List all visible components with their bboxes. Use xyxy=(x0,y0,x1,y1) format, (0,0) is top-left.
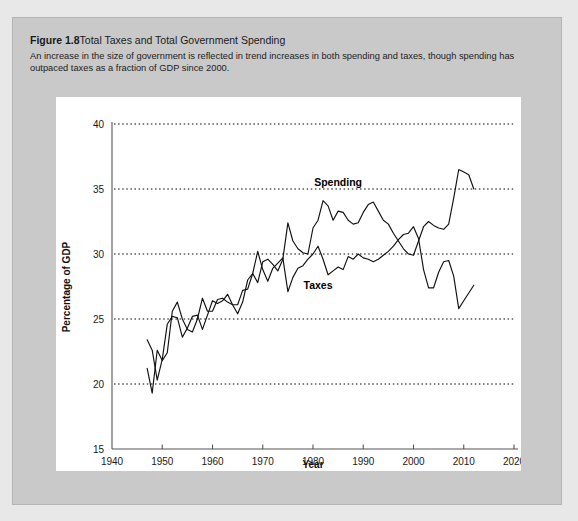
series-label-taxes: Taxes xyxy=(304,279,333,291)
y-tick-25: 25 xyxy=(93,314,105,325)
y-tick-30: 30 xyxy=(93,249,105,260)
figure-title-text: Total Taxes and Total Government Spendin… xyxy=(80,34,286,46)
figure-number: Figure 1.8 xyxy=(30,34,80,46)
x-axis-title: Year xyxy=(302,459,323,470)
y-tick-20: 20 xyxy=(93,379,105,390)
gridlines xyxy=(114,124,514,384)
x-tick-2000: 2000 xyxy=(402,456,425,467)
y-tick-35: 35 xyxy=(93,184,105,195)
series-line-taxes xyxy=(147,227,474,380)
plot-panel: 152025303540 194019501960197019801990200… xyxy=(56,97,521,471)
line-chart: 152025303540 194019501960197019801990200… xyxy=(56,97,521,471)
x-tick-2010: 2010 xyxy=(453,456,476,467)
x-tick-1950: 1950 xyxy=(151,456,174,467)
y-tick-15: 15 xyxy=(93,444,105,455)
y-tick-40: 40 xyxy=(93,119,105,130)
x-tick-1990: 1990 xyxy=(352,456,375,467)
series-label-spending: Spending xyxy=(314,176,362,188)
y-axis-tick-labels: 152025303540 xyxy=(93,119,105,455)
figure-panel: Figure 1.8Total Taxes and Total Governme… xyxy=(12,17,562,505)
x-tick-1960: 1960 xyxy=(201,456,224,467)
caption-block: Figure 1.8Total Taxes and Total Governme… xyxy=(30,33,546,75)
x-tick-1940: 1940 xyxy=(101,456,124,467)
y-axis-title: Percentage of GDP xyxy=(61,241,72,332)
figure-title: Figure 1.8Total Taxes and Total Governme… xyxy=(30,33,546,47)
x-tick-1970: 1970 xyxy=(252,456,275,467)
figure-subtitle: An increase in the size of government is… xyxy=(30,50,546,75)
x-axis-tick-marks xyxy=(162,445,514,450)
x-tick-2020: 2020 xyxy=(503,456,521,467)
